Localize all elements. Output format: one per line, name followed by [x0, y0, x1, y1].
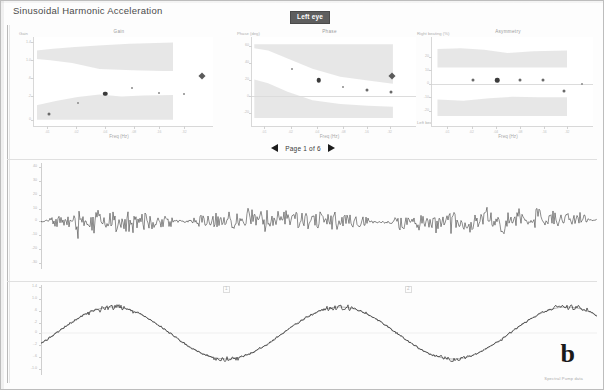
- chart-ylabel-phase: Phase (deg): [237, 31, 260, 36]
- chart-panel-head-position[interactable]: 1.4 1.0 .6 .2 0 -.2 -.6 -1.0 b Spectral …: [9, 283, 597, 385]
- normative-band-upper: [254, 44, 393, 84]
- data-point: [77, 102, 79, 104]
- chart-panel-phase[interactable]: Phase Phase (deg) 60 40 20 0 -20 .01 .02…: [237, 29, 422, 139]
- data-point: [316, 78, 321, 83]
- data-point: [581, 83, 583, 85]
- chart-panel-asymmetry[interactable]: Asymmetry Right beating (%) Left beating…: [417, 29, 599, 139]
- data-point: [562, 90, 565, 93]
- data-point: [495, 78, 500, 83]
- data-point: [103, 91, 108, 96]
- plot-area-gain: 1.4 1.0 .6 .2 0 .01 .02 .04 .08 .16 .32: [33, 37, 213, 127]
- chart-xlabel-asymmetry: Freq (Hz): [417, 134, 599, 139]
- page-title: Sinusoidal Harmonic Acceleration: [13, 5, 163, 16]
- triangle-left-icon[interactable]: [271, 144, 278, 152]
- normative-band-upper: [37, 42, 174, 71]
- normative-band-upper: [437, 48, 567, 68]
- page-navigation: Page 1 of 6: [1, 141, 604, 155]
- y-axis: [33, 37, 34, 127]
- plot-area-phase: 60 40 20 0 -20 .01 .02 .04 .08 .16 .32: [251, 37, 416, 127]
- section-divider-bottom: [7, 281, 597, 282]
- data-point: [365, 89, 368, 92]
- triangle-right-icon[interactable]: [328, 144, 335, 152]
- zero-line: [251, 96, 416, 97]
- y-axis: [431, 37, 432, 127]
- chart-ylabel-asymmetry-top: Right beating (%): [417, 31, 449, 36]
- chart-title-gain: Gain: [19, 29, 219, 34]
- data-point: [158, 92, 160, 94]
- data-point: [342, 86, 344, 88]
- chart-panel-gain[interactable]: Gain Gain 1.4 1.0 .6 .2 0 .01 .02 .04 .0…: [19, 29, 219, 139]
- data-point: [291, 68, 293, 70]
- plot-area-asymmetry: 20 10 0 -10 -20 .01 .02 .04 .08 .16 .32: [431, 37, 593, 127]
- chart-panel-eye-velocity[interactable]: 40 30 20 10 0 -10 -20 -30: [9, 161, 597, 279]
- eye-velocity-waveform: [41, 161, 597, 279]
- normative-band-lower: [437, 96, 567, 116]
- figure-panel-label: b: [561, 341, 575, 367]
- chart-xlabel-gain: Freq (Hz): [19, 134, 219, 139]
- chart-ylabel-gain: Gain: [19, 31, 28, 36]
- page-indicator-label: Page 1 of 6: [285, 145, 320, 152]
- x-axis: [33, 126, 213, 127]
- section-divider-top: [7, 159, 597, 160]
- summary-panels: Gain Gain 1.4 1.0 .6 .2 0 .01 .02 .04 .0…: [9, 29, 601, 139]
- software-watermark: Spectral Pump data: [544, 376, 583, 381]
- normative-band-lower: [37, 93, 174, 120]
- x-axis: [431, 126, 593, 127]
- head-position-waveform: [41, 283, 597, 385]
- data-point: [183, 93, 185, 95]
- chart-xlabel-phase: Freq (Hz): [237, 134, 422, 139]
- data-point: [48, 113, 51, 116]
- zero-line: [431, 84, 593, 85]
- data-point: [472, 79, 475, 82]
- page-left-rail: [7, 25, 8, 383]
- data-point: [541, 79, 544, 82]
- data-point: [390, 90, 393, 93]
- data-point: [131, 87, 133, 89]
- status-badge-eye: Left eye: [290, 11, 330, 24]
- title-bar: Sinusoidal Harmonic Acceleration Left ey…: [1, 1, 604, 23]
- trace-marker-left[interactable]: 1: [223, 286, 230, 293]
- data-point: [519, 79, 522, 82]
- trace-marker-right[interactable]: 2: [405, 286, 412, 293]
- x-axis: [251, 126, 416, 127]
- sha-report-window: Sinusoidal Harmonic Acceleration Left ey…: [0, 0, 604, 390]
- chart-title-phase: Phase: [237, 29, 422, 34]
